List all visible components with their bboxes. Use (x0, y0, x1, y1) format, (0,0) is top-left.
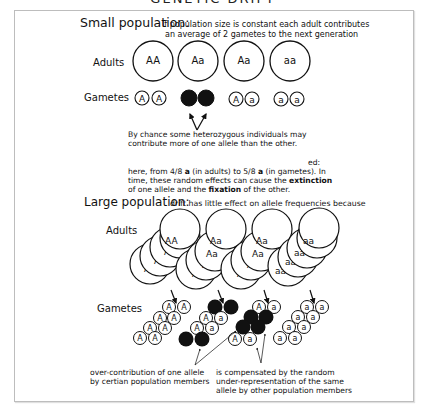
filled-gamete-circle (181, 90, 197, 106)
adult-genotype: aa (303, 236, 314, 246)
filled-gamete-circle (198, 90, 214, 106)
gamete-allele: a (249, 95, 255, 105)
gamete-cluster-aa: a a a a a a a a (274, 301, 329, 345)
svg-text:a: a (302, 323, 307, 332)
svg-text:Aa: Aa (206, 249, 218, 259)
gamete-allele: A (233, 95, 240, 105)
adult-genotype: Aa (210, 236, 222, 246)
large-gametes-label: Gametes (97, 303, 142, 314)
svg-text:A: A (181, 303, 187, 312)
large-note-left-1: over-contribution of one allele (90, 368, 205, 377)
adult-genotype: Aa (192, 55, 205, 66)
adult-genotype: AA (146, 55, 160, 66)
svg-text:a: a (278, 334, 283, 343)
svg-text:a: a (210, 324, 215, 333)
small-population-description-1: If population size is constant each adul… (162, 20, 369, 29)
large-note-left-2: by certian population members (90, 377, 210, 386)
gamete-allele: a (294, 95, 300, 105)
gamete-circles: A A A a a a (135, 90, 304, 106)
svg-text:a: a (287, 323, 292, 332)
large-population-description: drift has little effect on allele freque… (170, 199, 366, 208)
large-note-right-2: under-representation of the same (216, 377, 344, 386)
large-note-right-3: allele by other population members (216, 386, 352, 395)
svg-text:a: a (296, 313, 301, 322)
adult-genotype: Aa (256, 236, 268, 246)
arrow-icon (190, 114, 206, 130)
svg-text:A: A (256, 303, 262, 312)
svg-text:A: A (166, 303, 172, 312)
svg-text:A: A (203, 314, 209, 323)
svg-text:a: a (320, 303, 325, 312)
small-population-section: Small population: If population size is … (80, 15, 369, 194)
explanation-line-3: of one allele and the fixation of the ot… (128, 185, 290, 194)
svg-text:a: a (293, 334, 298, 343)
explanation-suffix: ed: (308, 158, 320, 167)
gamete-allele: A (156, 94, 163, 104)
svg-text:a: a (311, 313, 316, 322)
adult-genotype: Aa (238, 55, 251, 66)
adult-circles: AA Aa Aa aa (133, 41, 310, 81)
svg-text:A: A (194, 324, 200, 333)
svg-text:a: a (272, 303, 277, 312)
large-population-section: Large population: drift has little effec… (84, 195, 366, 395)
explanation-line-1: here, from 4/8 a (in adults) to 5/8 a (i… (128, 167, 326, 176)
svg-text:a: a (305, 303, 310, 312)
explanation-line-2: time, these random effects can cause the… (128, 176, 332, 185)
small-population-note-1: By chance some heterozygous individuals … (128, 130, 307, 139)
large-note-right-1: is compensated by the random (216, 368, 335, 377)
small-population-description-2: an average of 2 gametes to the next gene… (165, 30, 358, 39)
adults-label: Adults (93, 57, 124, 68)
svg-text:a: a (248, 335, 253, 344)
svg-text:a: a (219, 314, 224, 323)
large-adults-label: Adults (106, 225, 137, 236)
svg-text:A: A (137, 334, 143, 343)
small-population-note-2: contribute more of one allele than the o… (128, 139, 297, 148)
gamete-allele: A (139, 94, 146, 104)
svg-text:A: A (152, 334, 158, 343)
gametes-label: Gametes (84, 92, 129, 103)
svg-text:A: A (162, 324, 168, 333)
arrow-icon (171, 290, 314, 303)
adult-genotype: aa (284, 55, 296, 66)
gamete-allele: a (278, 95, 284, 105)
svg-text:Aa: Aa (252, 249, 264, 259)
genetic-drift-diagram: Small population: If population size is … (0, 0, 426, 419)
adult-genotype: AA (165, 236, 178, 246)
svg-text:A: A (232, 335, 238, 344)
svg-text:A: A (171, 314, 177, 323)
